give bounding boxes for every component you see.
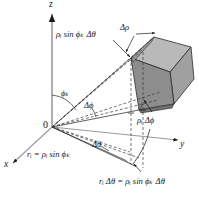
delta-rho-text: Δρ — [120, 22, 129, 32]
delta-theta-text: Δθ — [92, 139, 101, 149]
spherical-volume-element-figure: z x y 0 ρᵢ sin ϕₖ Δθ Δρ ϕₖ Δϕ ρᵢ Δϕ Δθ r… — [0, 0, 199, 202]
cylindrical-radius-text: rᵢ = ρᵢ sin ϕₖ — [27, 149, 70, 159]
azimuthal-arc-base-label: rᵢ Δθ = ρᵢ sin ϕₖ Δθ — [99, 177, 165, 186]
origin-label: 0 — [43, 120, 48, 130]
leader-r-delta-theta — [134, 164, 141, 172]
rho-delta-phi-text: ρᵢ Δϕ — [137, 115, 154, 125]
delta-phi-label: Δϕ — [84, 101, 94, 110]
leader-delta-rho-2 — [126, 36, 134, 52]
azimuthal-arc-base-text: rᵢ Δθ = ρᵢ sin ϕₖ Δθ — [99, 176, 165, 186]
cylindrical-radius-label: rᵢ = ρᵢ sin ϕₖ — [27, 150, 70, 159]
z-axis-label: z — [49, 0, 53, 10]
y-axis-label: y — [180, 140, 184, 150]
azimuthal-arc-top-label: ρᵢ sin ϕₖ Δθ — [56, 30, 96, 39]
rho-delta-phi-label: ρᵢ Δϕ — [137, 116, 154, 125]
azimuthal-arc-top-text: ρᵢ sin ϕₖ Δθ — [56, 29, 96, 39]
arc-base-outer — [133, 129, 150, 164]
leader-delta-rho — [136, 33, 155, 34]
delta-theta-label: Δθ — [92, 140, 101, 149]
x-axis-label: x — [4, 160, 8, 170]
volume-element-block — [131, 37, 194, 113]
phi-k-text: ϕₖ — [61, 88, 69, 98]
delta-phi-text: Δϕ — [84, 100, 94, 110]
phi-k-label: ϕₖ — [61, 89, 69, 98]
delta-rho-label: Δρ — [120, 23, 129, 32]
y-axis — [52, 127, 178, 140]
figure-drawing — [0, 0, 199, 202]
